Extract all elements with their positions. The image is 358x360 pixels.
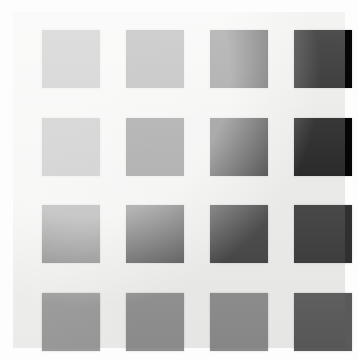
swatch-r3c2	[126, 205, 184, 263]
swatch-grid	[13, 12, 345, 348]
swatch-r2c1	[42, 118, 100, 176]
swatch-r1c2-fill	[126, 30, 184, 88]
swatch-r1c1-fill	[42, 30, 100, 88]
swatch-r4c2-fill	[126, 293, 184, 351]
swatch-r3c1	[42, 205, 100, 263]
swatch-r2c4	[294, 118, 352, 176]
swatch-r3c4-fill	[294, 205, 352, 263]
swatch-r2c1-fill	[42, 118, 100, 176]
swatch-r3c3-fill	[210, 205, 268, 263]
swatch-r3c4	[294, 205, 352, 263]
swatch-r1c3-fill	[210, 30, 268, 88]
swatch-r2c3-fill	[210, 118, 268, 176]
swatch-r4c3-fill	[210, 293, 268, 351]
swatch-r1c2	[126, 30, 184, 88]
swatch-r4c1-fill	[42, 293, 100, 351]
swatch-r4c3	[210, 293, 268, 351]
swatch-r3c2-fill	[126, 205, 184, 263]
swatch-r3c3	[210, 205, 268, 263]
swatch-r4c2	[126, 293, 184, 351]
swatch-r2c2-fill	[126, 118, 184, 176]
swatch-r1c3	[210, 30, 268, 88]
swatch-r1c4	[294, 30, 352, 88]
swatch-r1c4-fill	[294, 30, 352, 88]
swatch-r2c3	[210, 118, 268, 176]
image-canvas	[0, 0, 358, 360]
swatch-r1c1	[42, 30, 100, 88]
swatch-r4c1	[42, 293, 100, 351]
swatch-panel	[13, 12, 345, 348]
swatch-r4c4	[294, 293, 352, 351]
swatch-r2c4-fill	[294, 118, 352, 176]
swatch-r2c2	[126, 118, 184, 176]
swatch-r4c4-fill	[294, 293, 352, 351]
swatch-r3c1-fill	[42, 205, 100, 263]
